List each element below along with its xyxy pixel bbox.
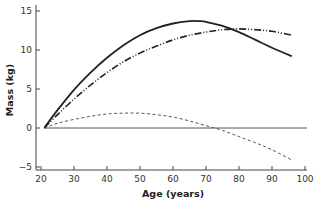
y-tick-label: 10 (21, 45, 33, 55)
x-tick-label: 50 (134, 174, 146, 184)
x-tick-label: 20 (35, 174, 47, 184)
series-group (44, 21, 291, 160)
y-tick-label: −5 (19, 162, 32, 172)
y-axis-label: Mass (kg) (4, 64, 15, 116)
line-chart: −5051015 2030405060708090100 Age (years)… (0, 0, 317, 204)
x-tick-label: 40 (101, 174, 113, 184)
x-axis: 2030405060708090100 (35, 166, 314, 184)
x-tick-label: 60 (167, 174, 179, 184)
x-tick-label: 80 (233, 174, 245, 184)
x-tick-label: 90 (266, 174, 278, 184)
y-tick-label: 15 (21, 6, 32, 16)
x-tick-label: 70 (200, 174, 212, 184)
series-dash-dot-line (44, 29, 291, 128)
x-tick-label: 100 (296, 174, 313, 184)
y-axis: −5051015 (19, 5, 40, 172)
series-solid-line (44, 21, 291, 128)
series-dashed-line (44, 113, 291, 160)
x-tick-label: 30 (68, 174, 80, 184)
x-axis-label: Age (years) (142, 188, 204, 199)
y-tick-label: 0 (26, 123, 32, 133)
y-tick-label: 5 (26, 84, 32, 94)
